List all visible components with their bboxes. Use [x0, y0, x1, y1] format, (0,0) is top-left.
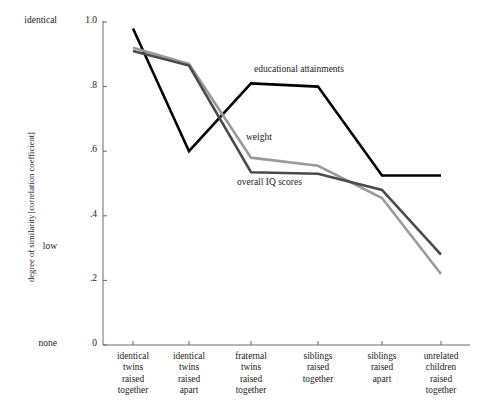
x-category-label-line: raised — [406, 374, 476, 385]
y-axis-anchor-label: none — [0, 338, 57, 348]
x-category-label: fraternaltwinsraisedtogether — [216, 351, 286, 397]
series-annotation-label: overall IQ scores — [237, 177, 302, 187]
x-category-label-line: apart — [154, 385, 224, 396]
x-category-label-line: together — [406, 385, 476, 396]
y-tick-label: 1.0 — [59, 15, 97, 25]
y-tick-label: .2 — [59, 273, 97, 283]
y-axis-anchor-label: identical — [0, 15, 57, 25]
x-category-label-line: twins — [154, 362, 224, 373]
x-category-label-line: raised — [283, 362, 353, 373]
x-category-label-line: children — [406, 362, 476, 373]
x-category-label-line: identical — [154, 351, 224, 362]
y-tick-label: 0 — [59, 338, 97, 348]
x-category-label-line: fraternal — [216, 351, 286, 362]
series-line — [133, 48, 441, 274]
series-annotation-label: weight — [246, 132, 272, 142]
series-line — [133, 51, 441, 254]
y-tick-label: .4 — [59, 209, 97, 219]
x-category-label-line: raised — [154, 374, 224, 385]
x-category-label: siblingsraisedtogether — [283, 351, 353, 385]
y-tick-label: .8 — [59, 80, 97, 90]
x-category-label-line: raised — [216, 374, 286, 385]
x-category-label: unrelatedchildrenraisedtogether — [406, 351, 476, 397]
x-category-label-line: unrelated — [406, 351, 476, 362]
y-axis-anchor-label: low — [0, 241, 57, 251]
x-category-label-line: together — [216, 385, 286, 396]
chart-figure: degree of similarity [correlation coeffi… — [0, 0, 478, 419]
y-axis-title-line2: [correlation coefficient] — [26, 132, 37, 214]
series-annotation-label: educational attainments — [254, 64, 344, 74]
y-axis-title: degree of similarity [correlation coeffi… — [26, 132, 37, 282]
series-line — [133, 28, 441, 175]
x-category-label-line: twins — [216, 362, 286, 373]
y-tick-label: .6 — [59, 144, 97, 154]
x-category-label-line: siblings — [283, 351, 353, 362]
x-category-label-line: together — [283, 374, 353, 385]
x-category-label: identicaltwinsraisedapart — [154, 351, 224, 397]
